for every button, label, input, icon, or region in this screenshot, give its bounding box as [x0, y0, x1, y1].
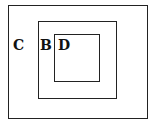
set-b-label: B	[40, 38, 52, 52]
set-d-label: D	[58, 38, 70, 52]
set-c-label: C	[13, 38, 24, 52]
